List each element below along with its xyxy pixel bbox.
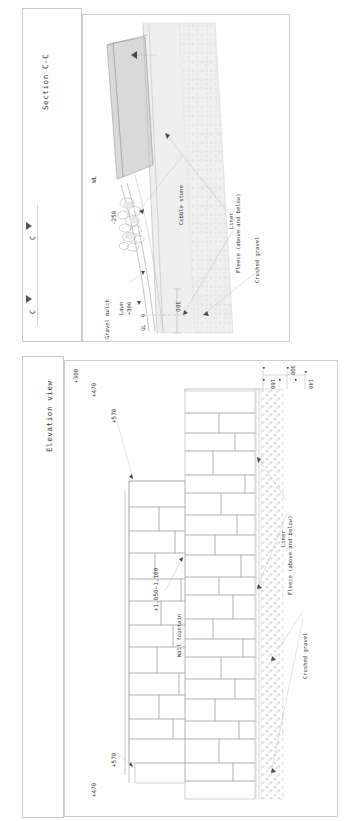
section-marker-left-label: C [30, 310, 37, 314]
label-water-level: WL [91, 176, 97, 183]
section-marker-right-label: C [30, 236, 37, 240]
elevation-panel-frame [22, 356, 64, 818]
elevation-svg [65, 361, 337, 816]
label-liner-elev: Liner [281, 530, 287, 547]
label-cobble-stone: Cobble stone [179, 185, 185, 225]
label-lawn-level: +300 [127, 302, 133, 315]
label-wall-height: +1,050~1,100 [153, 568, 159, 611]
label-dim-140: 140 [308, 379, 314, 389]
label-liner: Liner [229, 212, 235, 229]
label-dim-160: 160 [270, 379, 276, 389]
section-panel-frame [22, 8, 82, 342]
label-water-depth: -250 [111, 211, 117, 225]
label-lawn: Lawn [119, 302, 125, 315]
label-ground-level-value: 0 [141, 314, 147, 317]
label-crushed-gravel: Crushed gravel [255, 237, 261, 283]
label-level-470-left: +470 [91, 783, 97, 797]
elevation-drawing: Wall fountain +1,050~1,100 +570 +470 +57… [64, 360, 338, 817]
section-marker-left-triangle-icon [26, 295, 32, 303]
label-level-470-right: +470 [91, 383, 97, 397]
label-level-570-right: +570 [111, 409, 117, 423]
label-crushed-gravel-elev: Crushed gravel [303, 633, 309, 679]
label-level-570-left: +570 [111, 753, 117, 767]
label-depth-dim: 300 [175, 301, 181, 312]
section-panel-title: Section C-C [42, 54, 50, 110]
label-fleece-elev: Fleece (above and below) [288, 516, 294, 595]
elevation-panel-title: Elevation view [46, 380, 54, 452]
label-fleece: Fleece (above and below) [236, 194, 242, 273]
section-marker-divider [37, 205, 38, 325]
label-dim-300: 300 [290, 365, 296, 375]
section-marker-right-triangle-icon [26, 222, 32, 230]
label-level-300: +300 [73, 369, 79, 383]
section-cc-drawing: WL -250 Cobble stone Liner Fleece (above… [82, 14, 290, 342]
label-gravel-mulch: Gravel mulch [105, 299, 111, 339]
label-ground-level: GL [141, 324, 147, 331]
section-cc-svg [83, 15, 289, 341]
label-wall-fountain: Wall fountain [177, 614, 183, 657]
